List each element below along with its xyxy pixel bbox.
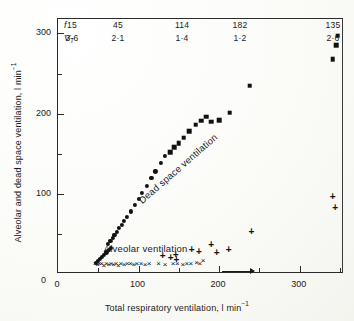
data-point [156,261,162,267]
header-tidal-volume-value: 2·6 [327,33,340,43]
data-point [187,129,192,134]
x-axis-tick-label: 200 [211,279,226,289]
x-axis-tick-label: 0 [54,279,59,289]
x-axis-tick-label: 300 [291,279,306,289]
data-point [162,262,168,268]
data-point [332,205,338,211]
y-axis-tick-label: 300 [27,27,51,37]
data-point [177,141,182,146]
y-axis-minor-tick [58,74,62,75]
x-axis-tick [219,266,220,272]
data-point [168,150,173,155]
rightward-arrow-icon [222,267,254,275]
header-rule [57,18,343,19]
data-point [227,111,232,116]
data-point [149,176,153,180]
data-point [160,253,166,259]
data-point [193,123,198,128]
y-axis-tick-label: 200 [27,108,51,118]
x-axis-minor-tick [340,268,341,272]
data-point [199,119,204,124]
header-row-frequency: f 1545114182135 [57,20,343,33]
data-point [330,194,336,200]
data-point [214,250,220,256]
header-tidal-volume-value: 2·1 [112,33,125,43]
header-tidal-volume-value: 1·2 [234,33,247,43]
x-axis-tick-label: 100 [130,279,145,289]
data-point [217,118,222,123]
parameter-header-table: f 1545114182135 VT 3·62·11·41·22·6 [57,18,343,48]
x-axis-minor-tick [259,268,260,272]
data-point [153,169,157,173]
header-frequency-value: 135 [326,20,341,30]
header-tidal-volume-value: 1·4 [176,33,189,43]
data-point [132,203,136,207]
data-point [125,215,129,219]
data-point [200,258,206,264]
y-axis-tick [58,114,64,115]
data-point [247,83,252,88]
series-label-alveolar: Alveolar ventilation [104,243,188,254]
data-point [120,223,124,227]
header-row-tidal-volume: VT 3·62·11·41·22·6 [57,33,343,46]
data-point [159,160,163,164]
x-axis-title: Total respiratory ventilation, l min−1 [0,300,354,313]
y-axis-minor-tick [58,154,62,155]
data-point [181,135,186,140]
x-axis-tick [300,266,301,272]
data-point [248,229,254,235]
data-point [128,209,132,213]
data-point [146,261,152,267]
data-point [163,154,167,158]
data-point [189,247,195,253]
data-point [172,145,177,150]
data-point [209,119,214,124]
data-point [330,57,335,62]
data-point [196,249,202,255]
y-axis-tick [58,194,64,195]
y-axis-tick-label: 100 [27,188,51,198]
data-point [226,247,232,253]
respiratory-ventilation-figure: f 1545114182135 VT 3·62·11·41·22·6 Total… [0,0,354,321]
data-point [173,257,179,263]
header-frequency-value: 182 [233,20,248,30]
header-frequency-value: 15 [67,20,77,30]
y-axis-minor-tick [58,234,62,235]
y-axis-tick-label: 0 [41,275,46,285]
x-axis-minor-tick [179,268,180,272]
arrow-head [250,268,255,274]
header-frequency-value: 45 [113,20,123,30]
header-frequency-value: 114 [175,20,189,30]
data-point [122,219,126,223]
y-axis-title: Alveolar and dead space ventilation, l m… [10,53,23,253]
header-tidal-volume-value: 3·6 [66,33,79,43]
